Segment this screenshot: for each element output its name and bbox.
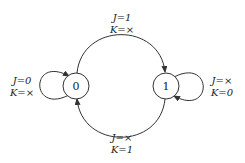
- transition-1-to-0-label-k: K=1: [110, 144, 133, 155]
- self-loop-1-label-k: K=0: [210, 87, 234, 98]
- transition-0-to-1: [77, 35, 165, 73]
- self-loop-1-label-j: J=×: [210, 75, 233, 86]
- self-loop-0-label-j: J=0: [11, 75, 32, 86]
- state-diagram: 0 1 J=1 K=× J=0 K=× J=× K=0 J=× K=1: [0, 0, 245, 163]
- self-loop-0-label-k: K=×: [9, 87, 34, 98]
- state-1-label: 1: [163, 80, 170, 93]
- state-0-label: 0: [73, 80, 80, 93]
- transition-1-to-0-label-j: J=×: [110, 132, 133, 143]
- transition-0-to-1-label-k: K=×: [109, 24, 134, 35]
- state-0: 0: [63, 73, 89, 99]
- transition-0-to-1-label-j: J=1: [111, 12, 132, 23]
- state-1: 1: [153, 73, 179, 99]
